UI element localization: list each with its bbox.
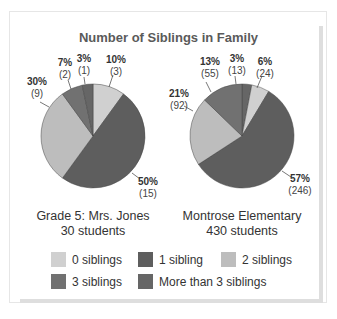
left-label-zero: 10% (3) xyxy=(101,54,131,78)
legend-label: More than 3 siblings xyxy=(159,275,266,289)
legend-swatch xyxy=(51,252,66,267)
right-label-zero: 6% (24) xyxy=(250,56,280,80)
pie-left xyxy=(41,84,145,188)
pct: 57% xyxy=(285,173,315,185)
right-caption-title: Montrose Elementary xyxy=(167,209,317,224)
left-label-one: 50% (15) xyxy=(133,176,163,200)
legend-swatch xyxy=(51,274,66,289)
left-label-two: 30% (9) xyxy=(22,76,52,100)
legend-label: 3 siblings xyxy=(72,275,122,289)
right-label-one: 57% (246) xyxy=(285,173,315,197)
legend-swatch xyxy=(138,252,153,267)
pct: 50% xyxy=(133,176,163,188)
count: (1) xyxy=(78,65,90,76)
count: (24) xyxy=(256,68,274,79)
right-label-more: 3% (13) xyxy=(225,53,249,77)
count: (2) xyxy=(59,69,71,80)
legend-item-0-siblings: 0 siblings xyxy=(51,252,122,267)
pct: 21% xyxy=(164,88,194,100)
pie-right xyxy=(190,84,294,188)
right-caption-count: 430 students xyxy=(167,224,317,239)
pct: 30% xyxy=(22,76,52,88)
legend-swatch xyxy=(138,274,153,289)
right-caption: Montrose Elementary 430 students xyxy=(167,209,317,239)
right-label-two: 21% (92) xyxy=(164,88,194,112)
left-caption-count: 30 students xyxy=(18,224,168,239)
left-caption: Grade 5: Mrs. Jones 30 students xyxy=(18,209,168,239)
pct: 6% xyxy=(250,56,280,68)
legend-swatch xyxy=(221,252,236,267)
legend-item-1-sibling: 1 sibling xyxy=(138,252,203,267)
legend-label: 1 sibling xyxy=(159,253,203,267)
count: (9) xyxy=(31,88,43,99)
count: (55) xyxy=(201,68,219,79)
pct: 3% xyxy=(225,53,249,65)
legend-label: 2 siblings xyxy=(242,253,292,267)
legend-item-2-siblings: 2 siblings xyxy=(221,252,292,267)
count: (92) xyxy=(170,100,188,111)
legend-item-more-than-3: More than 3 siblings xyxy=(138,274,266,289)
count: (13) xyxy=(228,65,246,76)
left-label-three: 7% (2) xyxy=(53,57,77,81)
pct: 10% xyxy=(101,54,131,66)
count: (246) xyxy=(288,185,311,196)
pct: 13% xyxy=(195,56,225,68)
pct: 7% xyxy=(53,57,77,69)
count: (3) xyxy=(110,66,122,77)
pie-charts xyxy=(0,0,337,319)
legend-item-3-siblings: 3 siblings xyxy=(51,274,122,289)
right-label-three: 13% (55) xyxy=(195,56,225,80)
count: (15) xyxy=(139,188,157,199)
legend-label: 0 siblings xyxy=(72,253,122,267)
left-caption-title: Grade 5: Mrs. Jones xyxy=(18,209,168,224)
